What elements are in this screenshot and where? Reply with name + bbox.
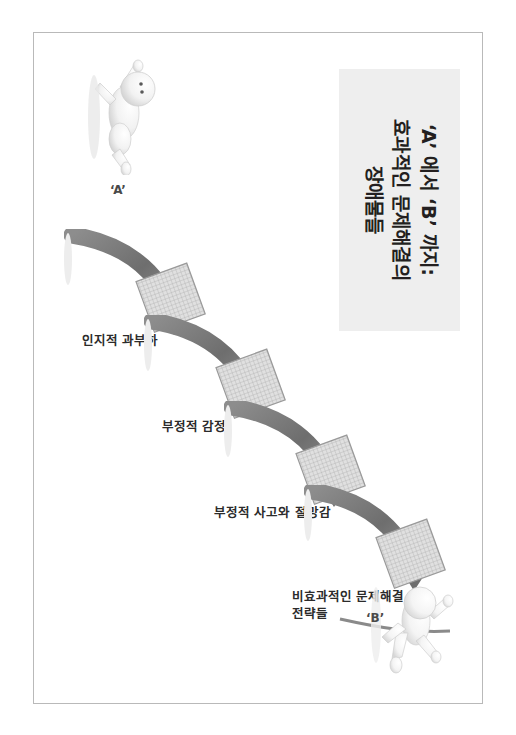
title-line-3: 장애물들 xyxy=(359,83,387,317)
start-figure xyxy=(72,55,182,175)
title-line-1: ‘A’ 에서 ‘B’ 까지: xyxy=(414,83,442,317)
page-title: ‘A’ 에서 ‘B’ 까지: 효과적인 문제해결의 장애물들 xyxy=(339,69,460,331)
person-with-flag-figure-icon xyxy=(328,573,468,693)
end-point-label: ‘B’ xyxy=(366,611,384,625)
step-4-label-line-2: 전략들 xyxy=(292,605,328,620)
title-line-2: 효과적인 문제해결의 xyxy=(387,83,415,317)
slide-page: ‘A’ 에서 ‘B’ 까지: 효과적인 문제해결의 장애물들 xyxy=(0,0,516,735)
slide-frame: ‘A’ 에서 ‘B’ 까지: 효과적인 문제해결의 장애물들 xyxy=(33,32,483,704)
step-2-label: 부정적 감정 xyxy=(162,419,226,436)
slide-canvas: ‘A’ 에서 ‘B’ 까지: 효과적인 문제해결의 장애물들 xyxy=(34,33,482,703)
end-figure xyxy=(328,573,468,693)
person-crawling-figure-icon xyxy=(72,55,182,175)
start-point-label: ‘A’ xyxy=(110,183,126,197)
